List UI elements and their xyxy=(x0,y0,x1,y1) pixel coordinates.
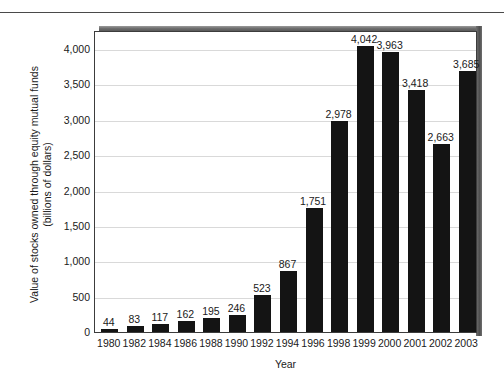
bar[interactable] xyxy=(382,52,399,332)
y-tick-label: 3,500 xyxy=(44,79,90,90)
bar[interactable] xyxy=(306,208,323,332)
bar[interactable] xyxy=(152,324,169,332)
bar[interactable] xyxy=(127,326,144,332)
bar[interactable] xyxy=(101,329,118,332)
bar[interactable] xyxy=(178,321,195,332)
bar[interactable] xyxy=(254,295,271,332)
bar[interactable] xyxy=(459,71,476,332)
x-axis-tick-labels: 1980198219841986198819901992199419961998… xyxy=(94,337,477,353)
y-tick-label: 4,000 xyxy=(44,44,90,55)
bar[interactable] xyxy=(203,318,220,332)
y-tick-label: 1,000 xyxy=(44,256,90,267)
x-tick-label: 2003 xyxy=(446,337,486,349)
y-tick-label: 500 xyxy=(44,292,90,303)
y-tick-label: 2,000 xyxy=(44,186,90,197)
y-tick-label: 3,000 xyxy=(44,115,90,126)
bar[interactable] xyxy=(229,315,246,332)
gridline xyxy=(95,85,476,86)
y-axis-tick-labels: 05001,0001,5002,0002,5003,0003,5004,000 xyxy=(40,31,90,333)
y-tick-label: 1,500 xyxy=(44,221,90,232)
plot-area xyxy=(94,31,477,333)
y-tick-label: 2,500 xyxy=(44,150,90,161)
plot-inner xyxy=(95,32,476,332)
y-tick-label: 0 xyxy=(44,327,90,338)
bar[interactable] xyxy=(357,46,374,332)
bar[interactable] xyxy=(433,144,450,332)
gridline xyxy=(95,50,476,51)
bar[interactable] xyxy=(408,90,425,332)
bar[interactable] xyxy=(331,121,348,332)
x-axis-title: Year xyxy=(94,358,477,370)
bar-chart-figure: Value of stocks owned through equity mut… xyxy=(0,0,504,387)
bar[interactable] xyxy=(280,271,297,332)
y-axis-title-line-1: Value of stocks owned through equity mut… xyxy=(28,40,41,330)
